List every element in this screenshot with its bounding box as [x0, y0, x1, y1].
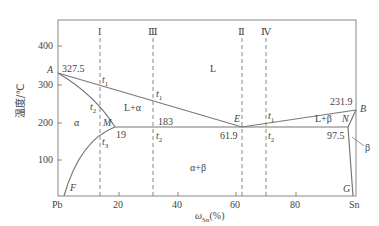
- eutectic-temp: 183: [158, 117, 173, 127]
- y-axis-label: 温度/℃: [12, 83, 27, 118]
- x-tick-20: 20: [113, 200, 123, 210]
- x-tick-40: 40: [172, 200, 182, 210]
- t2-alloy-I: t2: [90, 102, 96, 116]
- alloy-lines: [100, 38, 266, 196]
- x-axis-omega: ω: [195, 210, 202, 221]
- y-tick-400: 400: [38, 41, 53, 51]
- y-tick-100: 100: [38, 155, 53, 165]
- alloy-label-II: Ⅱ: [238, 27, 245, 37]
- t-subscript: 1: [105, 80, 109, 88]
- t-subscript: 2: [93, 107, 97, 115]
- t-subscript: 2: [159, 136, 163, 144]
- region-alpha-beta: α+β: [190, 163, 206, 173]
- x-axis-unit: (%): [209, 210, 224, 221]
- t-subscript: 3: [105, 142, 109, 150]
- point-M-comp: 19: [116, 130, 126, 140]
- point-F: F: [70, 183, 76, 193]
- t1-alloy-IV: t1: [268, 111, 274, 125]
- point-B: B: [360, 104, 366, 114]
- region-beta: β: [365, 143, 370, 153]
- point-N: N: [342, 114, 349, 124]
- x-axis-label: ωSn(%): [195, 211, 224, 225]
- t2-alloy-III: t2: [156, 131, 162, 145]
- x-ticks: [119, 192, 296, 196]
- t1-alloy-III: t1: [156, 89, 162, 103]
- region-alpha: α: [74, 118, 79, 128]
- alloy-label-III: Ⅲ: [148, 27, 158, 37]
- t1-alloy-I: t1: [102, 75, 108, 89]
- point-N-comp: 97.5: [327, 131, 345, 141]
- plot-frame: [58, 20, 356, 196]
- region-L: L: [210, 64, 216, 74]
- point-G: G: [343, 184, 350, 194]
- t2-alloy-IV: t2: [268, 131, 274, 145]
- y-tick-200: 200: [38, 118, 53, 128]
- x-tick-60: 60: [230, 200, 240, 210]
- region-L-alpha: L+α: [124, 103, 141, 113]
- region-L-beta: L+β: [315, 114, 332, 124]
- alloy-label-I: I: [98, 27, 101, 37]
- point-E: E: [234, 114, 240, 124]
- x-tick-80: 80: [290, 200, 300, 210]
- point-B-temp: 231.9: [330, 97, 353, 107]
- beta-solidus: [348, 110, 356, 127]
- point-M: M: [103, 118, 111, 128]
- alloy-label-IV: Ⅳ: [261, 27, 271, 37]
- x-label-sn: Sn: [349, 200, 360, 210]
- beta-leader: [352, 137, 364, 146]
- t-subscript: 1: [159, 94, 163, 102]
- point-A: A: [47, 65, 53, 75]
- point-E-comp: 61.9: [220, 131, 238, 141]
- x-label-pb: Pb: [52, 200, 63, 210]
- y-tick-300: 300: [38, 80, 53, 90]
- point-A-temp: 327.5: [62, 64, 85, 74]
- t3-alloy-I: t3: [102, 137, 108, 151]
- t-subscript: 1: [271, 116, 275, 124]
- t-subscript: 2: [271, 136, 275, 144]
